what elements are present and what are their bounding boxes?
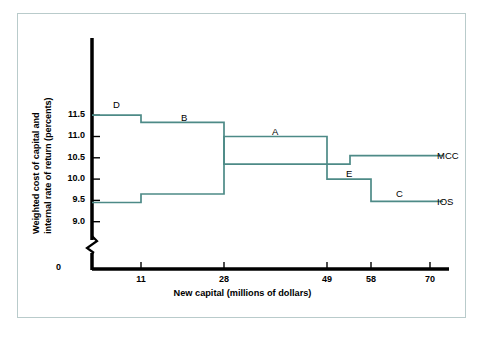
annotation-a: A (272, 126, 278, 137)
y-tick-label-11-0: 11.0 (51, 130, 85, 140)
x-tick-label-11: 11 (126, 274, 156, 284)
y-tick-label-11-5: 11.5 (51, 109, 85, 119)
annotation-b: B (181, 112, 187, 123)
annotation-c: C (396, 188, 403, 199)
y-axis-title-line1: Weighted cost of capital and (31, 112, 41, 234)
x-tick-label-28: 28 (209, 274, 239, 284)
y-tick-label-9-5: 9.5 (51, 194, 85, 204)
series-label-mcc: MCC (437, 150, 459, 161)
x-tick-label-49: 49 (312, 274, 342, 284)
chart-figure: Weighted cost of capital and internal ra… (0, 0, 485, 338)
x-axis-title: New capital (millions of dollars) (0, 288, 485, 298)
annotation-e: E (346, 168, 352, 179)
y-tick-label-10-5: 10.5 (51, 152, 85, 162)
annotation-d: D (113, 99, 120, 110)
series-label-ios: IOS (437, 196, 453, 207)
x-tick-label-58: 58 (356, 274, 386, 284)
y-axis-title: Weighted cost of capital and internal ra… (14, 38, 54, 238)
y-tick-label-9-0: 9.0 (51, 216, 85, 226)
y-tick-label-10-0: 10.0 (51, 173, 85, 183)
x-tick-label-70: 70 (415, 274, 445, 284)
x-tick-marks (141, 262, 430, 268)
origin-tick-label: 0 (56, 262, 61, 272)
series-line-ios (92, 137, 443, 203)
series-line-mcc (92, 115, 443, 164)
